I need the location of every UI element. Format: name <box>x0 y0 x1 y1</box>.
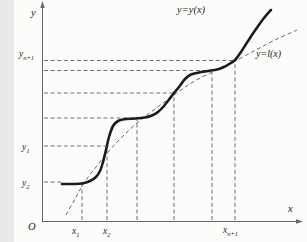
y-axis-label: y <box>30 7 36 18</box>
tick-y-1: y1 <box>21 142 29 154</box>
y-tick-labels: yn+1 y1 y2 <box>18 49 34 190</box>
function-curve-y <box>62 10 271 184</box>
y-axis-arrow-icon <box>40 1 44 8</box>
figure-canvas: y x O y=y(x) y=l(x) yn+1 y1 y2 x1 x2 xn+… <box>14 0 307 242</box>
function-curve-label: y=y(x) <box>176 4 206 16</box>
x-axis-arrow-icon <box>296 219 303 223</box>
tick-x-1: x1 <box>71 226 79 238</box>
x-tick-labels: x1 x2 xn+1 <box>71 225 238 238</box>
construction-guides <box>44 61 235 221</box>
secant-line-label: y=l(x) <box>255 48 282 60</box>
tick-x-2: x2 <box>102 226 111 238</box>
axis-labels: y x O <box>28 7 293 232</box>
origin-label: O <box>28 221 36 232</box>
tick-y-n1: yn+1 <box>18 49 34 61</box>
tick-y-2: y2 <box>21 178 30 190</box>
tick-x-n1: xn+1 <box>222 225 238 237</box>
function-iteration-diagram: y x O y=y(x) y=l(x) yn+1 y1 y2 x1 x2 xn+… <box>14 0 307 242</box>
x-axis-label: x <box>287 203 293 214</box>
curve-labels: y=y(x) y=l(x) <box>176 4 282 60</box>
